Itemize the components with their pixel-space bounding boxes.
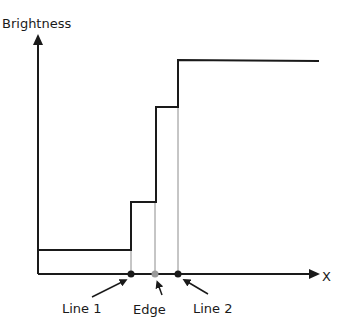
line1-pointer (92, 281, 124, 297)
line2-pointer (186, 281, 208, 294)
edge-pointer (158, 284, 162, 295)
y-axis-label: Brightness (2, 16, 71, 31)
line1-point (128, 271, 135, 278)
x-axis-arrowhead-icon (309, 269, 320, 279)
line2-label: Line 2 (193, 301, 233, 316)
brightness-edge-diagram: Brightness X Line 1 Edge Line 2 (0, 0, 347, 325)
line2-point (175, 271, 182, 278)
y-axis-arrowhead-icon (33, 34, 43, 45)
x-axis-label: X (322, 269, 331, 284)
edge-point (152, 271, 159, 278)
line1-label: Line 1 (62, 301, 102, 316)
edge-label: Edge (133, 302, 166, 317)
